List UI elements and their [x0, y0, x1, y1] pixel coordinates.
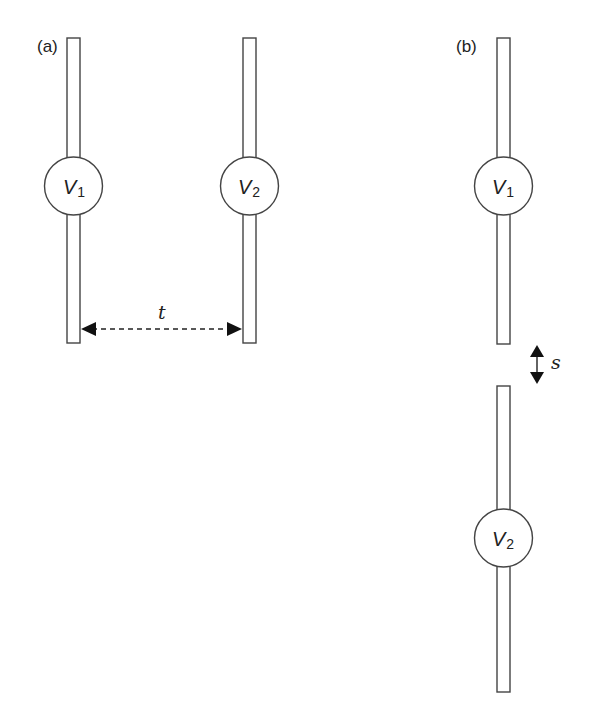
separation-s-arrow: s — [530, 345, 561, 384]
arrowhead-right-icon — [227, 322, 242, 336]
separation-s-label: s — [551, 351, 561, 373]
panel-b-label: (b) — [456, 37, 477, 56]
arrowhead-down-icon — [530, 372, 544, 384]
arrowhead-up-icon — [530, 345, 544, 357]
panel-a-right-electrode: V2 — [221, 38, 279, 343]
panel-a: (a) V1 V2 t — [37, 37, 279, 343]
separation-t-label: t — [158, 301, 166, 323]
panel-a-left-electrode: V1 — [45, 38, 103, 343]
panel-b: (b) V1 s V2 — [456, 37, 561, 692]
panel-b-upper-electrode: V1 — [475, 38, 533, 344]
diagram-canvas: (a) V1 V2 t (b) V1 — [0, 0, 591, 725]
panel-b-lower-electrode: V2 — [475, 386, 533, 692]
separation-t-arrow: t — [81, 301, 242, 336]
arrowhead-left-icon — [81, 322, 96, 336]
panel-a-label: (a) — [37, 37, 58, 56]
